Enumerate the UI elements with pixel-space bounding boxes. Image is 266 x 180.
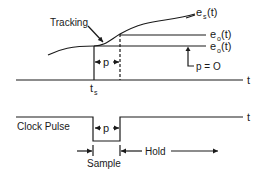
- svg-text:(t): (t): [207, 6, 217, 18]
- svg-text:t: t: [90, 82, 93, 94]
- clock-pulse-label: Clock Pulse: [17, 121, 70, 132]
- svg-text:e: e: [210, 28, 216, 40]
- svg-text:e: e: [196, 6, 202, 18]
- tracking-label: Tracking: [50, 17, 88, 28]
- svg-text:(t): (t): [221, 40, 231, 52]
- pulse-p-label: p: [103, 122, 109, 134]
- time-axis-bottom-label: t: [247, 111, 250, 123]
- sample-hold-diagram: t p t s Tracking e s (t) e: [0, 0, 266, 180]
- svg-text:e: e: [210, 40, 216, 52]
- time-axis-top-label: t: [247, 74, 250, 86]
- p-label-top: p: [103, 56, 109, 68]
- sample-label: Sample: [87, 158, 121, 169]
- p-zero-leader: [188, 49, 194, 66]
- signal-plot: t p t s Tracking e s (t) e: [16, 6, 250, 96]
- eo-label-2: e o (t): [210, 40, 231, 54]
- clock-plot: t Clock Pulse p Sample Hold: [16, 111, 250, 169]
- svg-text:(t): (t): [221, 28, 231, 40]
- ts-label: t s: [90, 82, 98, 96]
- p-zero-label: p = O: [196, 61, 221, 72]
- es-label: e s (t): [196, 6, 217, 20]
- tracking-leader: [88, 26, 103, 42]
- hold-label: Hold: [145, 146, 166, 157]
- p-zero-arrowhead: [186, 47, 191, 52]
- svg-text:s: s: [94, 89, 98, 96]
